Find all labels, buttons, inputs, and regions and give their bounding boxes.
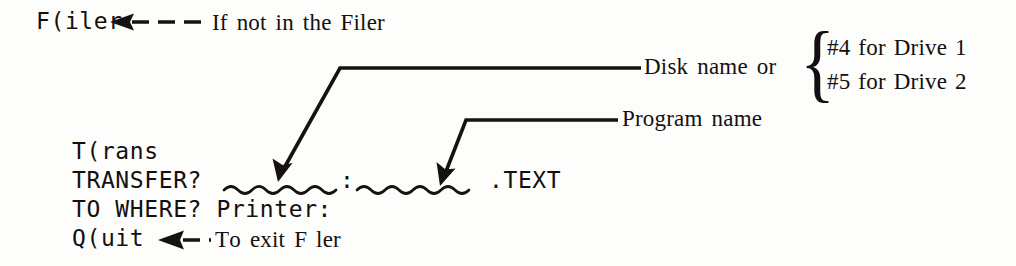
prompt-transfer-suffix: .TEXT xyxy=(489,169,561,192)
drive-option-2: #5 for Drive 2 xyxy=(827,70,967,93)
disk-name-leader xyxy=(273,68,642,182)
drive-option-1: #4 for Drive 1 xyxy=(827,36,967,59)
filer-annotated-figure: F(iler If not in the Filer Disk name or … xyxy=(0,0,1016,266)
annotation-program-name-label: Program name xyxy=(622,107,762,130)
prompt-destination-line: TO WHERE? Printer: xyxy=(72,198,332,221)
prompt-transfer-separator: : xyxy=(340,169,354,192)
annotation-filer-note: If not in the Filer xyxy=(212,11,385,34)
brace-glyph: { xyxy=(800,26,822,100)
squiggle-underline-program xyxy=(357,187,469,194)
quit-leader-arrow xyxy=(158,231,211,250)
menu-option-trans: T(rans xyxy=(72,140,159,163)
menu-option-filer: F(iler xyxy=(36,10,123,33)
prompt-transfer-label: TRANSFER? xyxy=(72,169,202,192)
annotation-quit-note: To exit F ler xyxy=(215,228,341,251)
menu-option-quit: Q(uit xyxy=(72,227,144,250)
squiggle-underline-disk xyxy=(224,187,336,194)
annotation-disk-name-label: Disk name or xyxy=(644,55,776,78)
drive-options-brace: { xyxy=(800,26,826,100)
filer-leader-arrow xyxy=(110,14,206,31)
